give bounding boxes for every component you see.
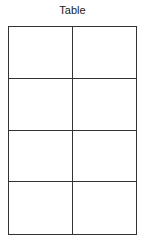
table-cell-r2-c1 xyxy=(9,79,73,131)
table-cell-r3-c1 xyxy=(9,131,73,183)
table-cell-r1-c1 xyxy=(9,27,73,79)
empty-table xyxy=(8,26,137,235)
table-title: Table xyxy=(0,4,145,16)
table-cell-r2-c2 xyxy=(73,79,137,131)
table-cell-r4-c2 xyxy=(73,182,137,234)
table-cell-r3-c2 xyxy=(73,131,137,183)
table-cell-r1-c2 xyxy=(73,27,137,79)
table-cell-r4-c1 xyxy=(9,182,73,234)
